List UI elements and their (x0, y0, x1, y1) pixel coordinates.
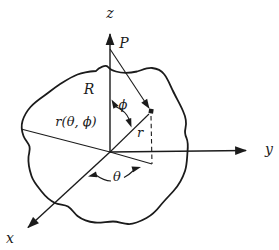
projection-base-line (110, 152, 152, 164)
boundary-radius-line (21, 129, 110, 152)
coordinate-diagram: z y x P R ϕ r θ r(θ, ϕ) (0, 0, 279, 250)
phi-arrowhead-lower (126, 118, 132, 128)
theta-arrowhead-left (88, 171, 97, 177)
source-point-dot (148, 109, 153, 114)
angle-phi-label: ϕ (119, 97, 128, 112)
point-p-label: P (118, 35, 129, 51)
distance-r-capital-label: R (83, 81, 95, 97)
y-axis-line (110, 151, 246, 153)
body-outline (22, 66, 188, 224)
p-to-source-line (110, 49, 149, 108)
r-vector-label: r (137, 125, 144, 140)
projection-dashed-line (151, 116, 152, 164)
theta-angle-arc-right (124, 171, 134, 178)
theta-arrowhead-right (132, 166, 142, 172)
boundary-function-label: r(θ, ϕ) (55, 114, 96, 129)
z-axis-label: z (105, 5, 114, 21)
theta-angle-arc-left (96, 175, 112, 181)
angle-theta-label: θ (113, 169, 121, 184)
x-axis-label: x (6, 230, 14, 246)
diagram-canvas: z y x P R ϕ r θ r(θ, ϕ) (0, 0, 279, 250)
y-axis-label: y (264, 141, 274, 157)
